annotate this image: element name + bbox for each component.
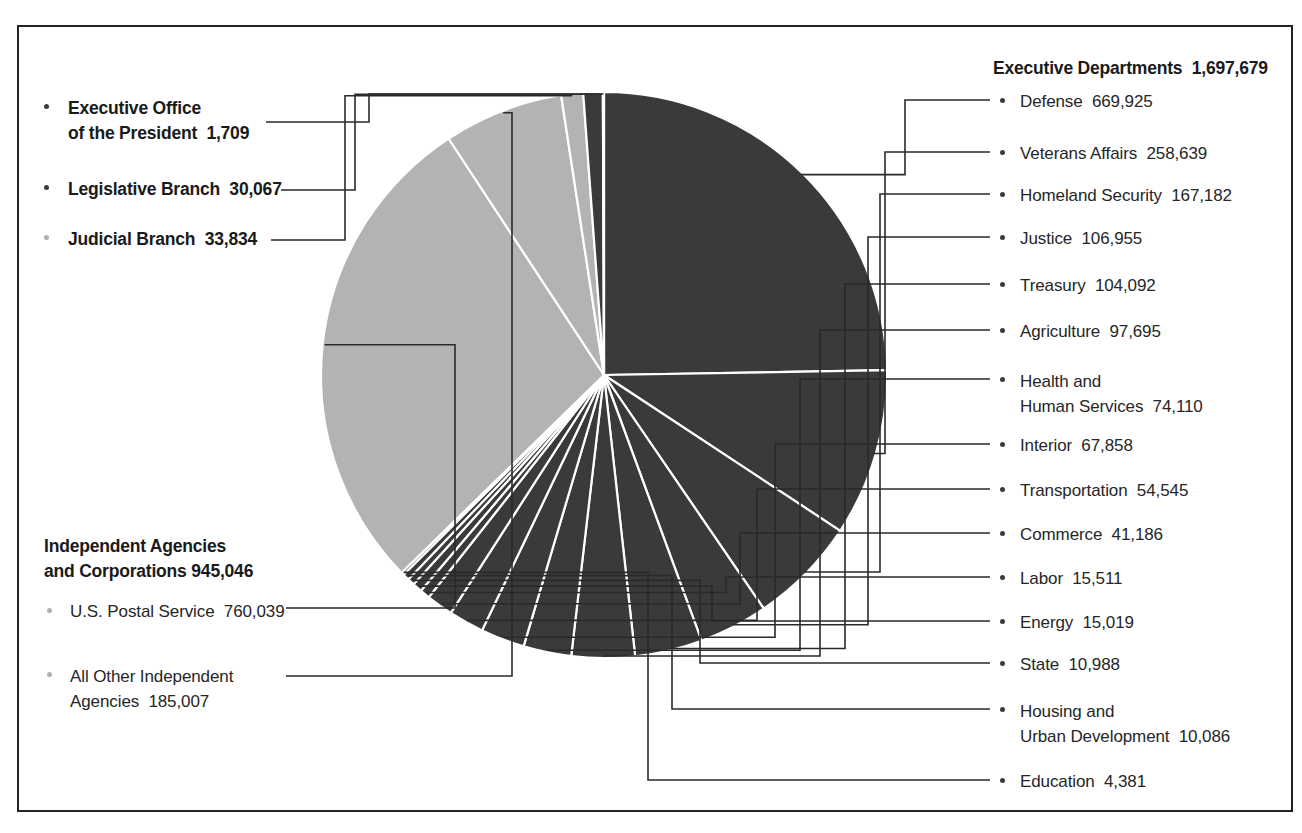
bullet-icon-6: [1000, 377, 1005, 382]
chart-stage: Executive Office of the President 1,709 …: [0, 0, 1302, 833]
label-homeland-security[interactable]: Homeland Security 167,182: [1020, 185, 1232, 207]
label-energy[interactable]: Energy 15,019: [1020, 612, 1134, 634]
legend-label: Treasury: [1020, 276, 1086, 295]
label-veterans-affairs[interactable]: Veterans Affairs 258,639: [1020, 143, 1207, 165]
legend-value: 74,110: [1153, 397, 1203, 416]
legend-value: 167,182: [1171, 186, 1232, 205]
bullet-icon-1: [1000, 150, 1005, 155]
eop-line2: of the President 1,709: [68, 121, 249, 146]
legislative-label: Legislative Branch: [68, 179, 220, 199]
legend-value: 669,925: [1092, 92, 1153, 111]
legend-line2: Urban Development 10,086: [1020, 725, 1230, 750]
legend-value: 15,019: [1083, 613, 1134, 632]
bullet-icon-3: [1000, 235, 1005, 240]
executive-departments-value: 1,697,679: [1192, 58, 1268, 78]
legend-label: Education: [1020, 772, 1095, 791]
legend-value: 67,858: [1081, 436, 1132, 455]
legend-value: 54,545: [1137, 481, 1188, 500]
legend-label: Justice: [1020, 229, 1072, 248]
label-agriculture[interactable]: Agriculture 97,695: [1020, 321, 1161, 343]
eop-line1: Executive Office: [68, 96, 249, 121]
independent-head-line2: and Corporations 945,046: [44, 559, 253, 584]
legend-label: Transportation: [1020, 481, 1128, 500]
bullet-icon-8: [1000, 487, 1005, 492]
leader-line-right-1: [874, 152, 990, 453]
legend-label: Commerce: [1020, 525, 1102, 544]
bullet-icon-judicial: [44, 235, 49, 240]
bullet-icon-7: [1000, 442, 1005, 447]
pie-slice-19[interactable]: [603, 92, 604, 375]
bullet-icon-14: [1000, 778, 1005, 783]
legend-label: Interior: [1020, 436, 1072, 455]
legend-line1: Health and: [1020, 370, 1203, 395]
executive-departments-label: Executive Departments: [993, 58, 1182, 78]
bullet-icon-usps: [47, 608, 52, 613]
bullet-icon-11: [1000, 619, 1005, 624]
legend-value: 10,988: [1068, 655, 1119, 674]
label-treasury[interactable]: Treasury 104,092: [1020, 275, 1156, 297]
judicial-label: Judicial Branch: [68, 229, 195, 249]
label-labor[interactable]: Labor 15,511: [1020, 568, 1122, 590]
legend-value: 97,695: [1109, 322, 1160, 341]
independent-head-line1: Independent Agencies: [44, 534, 253, 559]
label-us-postal-service[interactable]: U.S. Postal Service 760,039: [70, 601, 285, 623]
legislative-value: 30,067: [229, 179, 281, 199]
label-defense[interactable]: Defense 669,925: [1020, 91, 1153, 113]
bullet-icon-2: [1000, 192, 1005, 197]
legend-line2: Human Services 74,110: [1020, 395, 1203, 420]
legend-label: Agriculture: [1020, 322, 1100, 341]
judicial-value: 33,834: [205, 229, 257, 249]
label-health-and[interactable]: Health andHuman Services 74,110: [1020, 370, 1203, 419]
usps-value: 760,039: [224, 602, 285, 621]
legend-label: Labor: [1020, 569, 1063, 588]
bullet-icon-legislative: [44, 185, 49, 190]
legend-label2: Urban Development: [1020, 727, 1170, 746]
legend-value: 4,381: [1104, 772, 1146, 791]
usps-label: U.S. Postal Service: [70, 602, 215, 621]
label-all-other-independent-agencies[interactable]: All Other Independent Agencies 185,007: [70, 665, 233, 714]
bullet-icon-0: [1000, 98, 1005, 103]
legend-label: Defense: [1020, 92, 1083, 111]
legend-value: 15,511: [1072, 569, 1122, 588]
label-justice[interactable]: Justice 106,955: [1020, 228, 1142, 250]
other-agencies-value: 185,007: [148, 692, 209, 711]
label-interior[interactable]: Interior 67,858: [1020, 435, 1133, 457]
legend-value: 10,086: [1179, 727, 1230, 746]
legend-label: Homeland Security: [1020, 186, 1162, 205]
label-executive-office-president[interactable]: Executive Office of the President 1,709: [68, 96, 249, 147]
label-education[interactable]: Education 4,381: [1020, 771, 1146, 793]
legend-value: 106,955: [1081, 229, 1142, 248]
legend-label: Veterans Affairs: [1020, 144, 1137, 163]
legend-label2: Human Services: [1020, 397, 1143, 416]
eop-value: 1,709: [206, 123, 249, 143]
label-commerce[interactable]: Commerce 41,186: [1020, 524, 1163, 546]
label-state[interactable]: State 10,988: [1020, 654, 1120, 676]
label-judicial-branch[interactable]: Judicial Branch 33,834: [68, 228, 257, 250]
legend-label: Energy: [1020, 613, 1073, 632]
label-transportation[interactable]: Transportation 54,545: [1020, 480, 1188, 502]
legend-value: 104,092: [1095, 276, 1156, 295]
bullet-icon-eop: [44, 104, 49, 109]
other-agencies-line1: All Other Independent: [70, 665, 233, 690]
bullet-icon-4: [1000, 282, 1005, 287]
bullet-icon-10: [1000, 575, 1005, 580]
label-housing-and[interactable]: Housing andUrban Development 10,086: [1020, 700, 1230, 749]
legend-value: 258,639: [1146, 144, 1207, 163]
bullet-icon-9: [1000, 531, 1005, 536]
leader-line-right-0: [801, 100, 990, 175]
legend-line1: Housing and: [1020, 700, 1230, 725]
bullet-icon-12: [1000, 661, 1005, 666]
other-agencies-line2: Agencies 185,007: [70, 690, 233, 715]
label-legislative-branch[interactable]: Legislative Branch 30,067: [68, 178, 282, 200]
bullet-icon-other-agencies: [47, 672, 52, 677]
heading-independent-agencies: Independent Agencies and Corporations 94…: [44, 534, 253, 585]
bullet-icon-13: [1000, 707, 1005, 712]
independent-head-value: 945,046: [191, 561, 253, 581]
bullet-icon-5: [1000, 328, 1005, 333]
legend-label: State: [1020, 655, 1059, 674]
heading-executive-departments: Executive Departments 1,697,679: [993, 57, 1268, 79]
legend-value: 41,186: [1112, 525, 1163, 544]
